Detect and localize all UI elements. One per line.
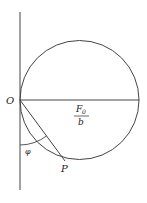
label-phi: φ [25, 147, 31, 156]
label-p: P [60, 163, 68, 174]
fraction-subscript: 0 [82, 108, 86, 115]
label-o: O [6, 95, 14, 106]
circle-diagram: O P φ F 0 b [0, 0, 147, 203]
fraction-denominator: b [78, 117, 84, 127]
diameter-fraction-label: F 0 b [74, 104, 89, 127]
